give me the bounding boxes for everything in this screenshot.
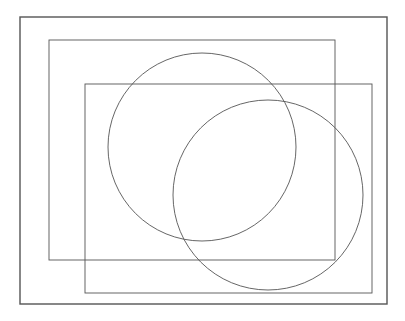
circle-a xyxy=(108,53,296,241)
outer-frame xyxy=(20,17,387,304)
venn-diagram-canvas xyxy=(0,0,405,321)
circle-b xyxy=(173,100,363,290)
rectangle-b xyxy=(85,84,372,293)
rectangle-a xyxy=(49,40,335,260)
